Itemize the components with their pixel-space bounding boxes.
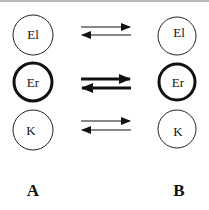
state-b-nodes: El Er K <box>158 17 196 148</box>
node-a-k: K <box>13 110 53 150</box>
node-b-el-label: El <box>173 25 185 40</box>
node-b-k: K <box>158 110 196 148</box>
node-a-k-label: K <box>26 123 36 138</box>
panel-label-a: A <box>27 181 40 200</box>
node-a-el: El <box>13 15 53 55</box>
equilibrium-diagram: El Er K El Er K <box>0 0 209 210</box>
node-b-er: Er <box>159 64 195 100</box>
node-b-el: El <box>158 17 196 55</box>
node-a-er: Er <box>14 63 52 101</box>
state-a-nodes: El Er K <box>13 15 53 150</box>
node-b-er-label: Er <box>172 75 185 90</box>
node-b-k-label: K <box>173 124 183 139</box>
equilibrium-er <box>81 79 131 88</box>
equilibrium-k <box>81 121 131 130</box>
equilibrium-el <box>81 27 131 35</box>
node-a-el-label: El <box>27 27 39 42</box>
panel-label-b: B <box>173 181 184 200</box>
node-a-er-label: Er <box>27 75 40 90</box>
